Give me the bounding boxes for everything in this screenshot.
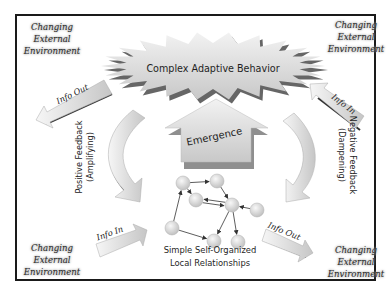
complex-adaptive-behavior-label: Complex Adaptive Behavior bbox=[128, 63, 298, 74]
env-line: Changing bbox=[316, 19, 391, 31]
env-label-top-right: Changing External Environment bbox=[316, 19, 391, 55]
env-line: Changing bbox=[12, 242, 92, 254]
network-node bbox=[225, 198, 239, 212]
env-line: External bbox=[316, 256, 391, 268]
env-line: Environment bbox=[316, 268, 391, 280]
network-node bbox=[189, 193, 203, 207]
env-label-bottom-left: Changing External Environment bbox=[12, 242, 92, 278]
env-line: Environment bbox=[316, 43, 391, 55]
env-line: Environment bbox=[12, 45, 92, 57]
network-edge bbox=[240, 207, 250, 209]
network-edge bbox=[203, 203, 224, 206]
negative-feedback-line: (Dampening) bbox=[336, 116, 347, 194]
network-edge bbox=[218, 211, 229, 234]
positive-feedback-label: Positive Feedback (Amplifying) bbox=[74, 120, 96, 193]
network-edge bbox=[221, 187, 228, 198]
network-edge bbox=[204, 199, 225, 202]
network-edge bbox=[174, 191, 181, 221]
env-line: External bbox=[316, 31, 391, 43]
env-label-bottom-right: Changing External Environment bbox=[316, 244, 391, 280]
positive-feedback-line: Positive Feedback bbox=[74, 120, 85, 193]
env-line: Changing bbox=[12, 21, 92, 33]
positive-feedback-arrow bbox=[108, 110, 145, 202]
env-line: External bbox=[12, 254, 92, 266]
network-edge bbox=[179, 230, 207, 239]
network-edge bbox=[187, 189, 191, 194]
network-node bbox=[165, 221, 179, 235]
caption-line: Local Relationships bbox=[150, 257, 270, 270]
network-node bbox=[250, 203, 264, 217]
env-line: Changing bbox=[316, 244, 391, 256]
caption-line: Simple Self-Organized bbox=[150, 244, 270, 257]
network-edge bbox=[233, 212, 237, 234]
env-line: External bbox=[12, 33, 92, 45]
negative-feedback-label: Negative Feedback (Dampening) bbox=[336, 116, 358, 194]
network-node bbox=[210, 174, 224, 188]
network-edge bbox=[190, 182, 209, 183]
env-label-top-left: Changing External Environment bbox=[12, 21, 92, 57]
env-line: Environment bbox=[12, 266, 92, 278]
network-caption: Simple Self-Organized Local Relationship… bbox=[150, 244, 270, 270]
negative-feedback-arrow bbox=[283, 113, 315, 202]
positive-feedback-line: (Amplifying) bbox=[85, 120, 96, 193]
network-node bbox=[176, 176, 190, 190]
network-graph bbox=[165, 174, 264, 249]
negative-feedback-line: Negative Feedback bbox=[347, 116, 358, 194]
